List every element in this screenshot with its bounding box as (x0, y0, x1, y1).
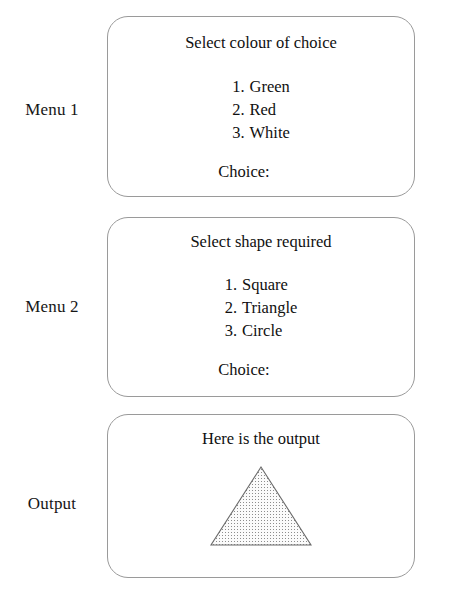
row-label-menu-1: Menu 1 (0, 100, 104, 120)
option-label: Green (250, 77, 290, 96)
option-number: 1. (232, 77, 244, 96)
option-number: 2. (232, 100, 244, 119)
output-title: Here is the output (108, 428, 414, 449)
menu-1-option-green[interactable]: 1.Green (232, 75, 290, 98)
menu-2-choice-line: Choice: (108, 359, 414, 380)
menu-2-choice-prompt: Choice: (218, 359, 303, 380)
menu-2-option-square[interactable]: 1.Square (225, 273, 298, 296)
option-number: 2. (225, 298, 237, 317)
menu-2-option-list: 1.Square 2.Triangle 3.Circle (108, 273, 414, 342)
option-number: 1. (225, 275, 237, 294)
row-label-menu-2: Menu 2 (0, 297, 104, 317)
menu-1-choice-prompt: Choice: (218, 161, 303, 182)
menu-1-choice-line: Choice: (108, 161, 414, 182)
option-label: Triangle (242, 298, 297, 317)
diagram-canvas: Menu 1 Menu 2 Output Select colour of ch… (0, 0, 450, 600)
menu-2-panel: Select shape required 1.Square 2.Triangl… (107, 217, 415, 397)
menu-1-option-red[interactable]: 2.Red (232, 98, 290, 121)
menu-1-option-list: 1.Green 2.Red 3.White (108, 75, 414, 144)
output-shape-area (108, 463, 414, 549)
menu-1-option-white[interactable]: 3.White (232, 121, 290, 144)
output-panel: Here is the output (107, 414, 415, 578)
triangle-shape (207, 463, 315, 549)
option-number: 3. (225, 321, 237, 340)
menu-2-option-circle[interactable]: 3.Circle (225, 319, 298, 342)
option-number: 3. (232, 123, 244, 142)
menu-1-title: Select colour of choice (108, 32, 414, 53)
option-label: White (250, 123, 290, 142)
menu-1-panel: Select colour of choice 1.Green 2.Red 3.… (107, 16, 415, 197)
option-label: Square (242, 275, 288, 294)
option-label: Red (250, 100, 277, 119)
option-label: Circle (242, 321, 282, 340)
menu-2-title: Select shape required (108, 231, 414, 252)
row-label-output: Output (0, 494, 104, 514)
menu-2-option-triangle[interactable]: 2.Triangle (225, 296, 298, 319)
